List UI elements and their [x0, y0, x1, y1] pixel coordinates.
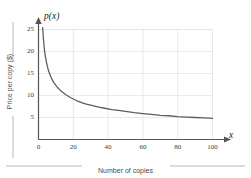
y-axis-name: p(x): [44, 12, 59, 22]
x-axis-tick-label: 60: [131, 144, 155, 151]
y-axis-tick-label: 15: [18, 70, 34, 77]
y-axis-tick-label: 10: [18, 92, 34, 99]
price-per-copy-line-chart: [0, 0, 251, 178]
x-axis-tick-label: 40: [96, 144, 120, 151]
y-axis-tick-label: 20: [18, 48, 34, 55]
x-axis-caption: Number of copies: [0, 167, 251, 174]
y-axis-caption: Price per copy ($): [6, 47, 13, 117]
x-axis-name: x: [229, 131, 233, 141]
x-axis-tick-label: 80: [166, 144, 190, 151]
x-axis-tick-label: 0: [27, 144, 51, 151]
y-axis-arrow: [35, 17, 41, 24]
chart-figure: p(x) x Number of copies Price per copy (…: [0, 0, 251, 178]
y-axis-tick-label: 25: [18, 26, 34, 33]
axes: [35, 17, 231, 143]
x-axis-tick-label: 100: [201, 144, 225, 151]
data-curve: [43, 28, 213, 119]
x-axis-tick-label: 20: [61, 144, 85, 151]
grid-lines: [39, 30, 213, 140]
y-axis-tick-label: 5: [18, 114, 34, 121]
